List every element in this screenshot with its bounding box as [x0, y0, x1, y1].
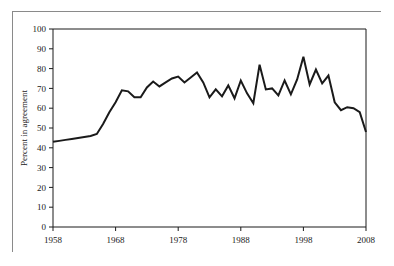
- x-tick-label: 1988: [232, 235, 251, 245]
- line-chart: 0102030405060708090100 19581968197819881…: [13, 12, 382, 253]
- y-tick-label: 60: [37, 103, 47, 113]
- y-tick-label: 20: [37, 183, 47, 193]
- x-tick-label: 1958: [44, 235, 63, 245]
- figure-outer-frame: 0102030405060708090100 19581968197819881…: [12, 11, 381, 252]
- y-tick-label: 0: [42, 222, 47, 232]
- y-axis-title: Percent in agreement: [19, 90, 29, 166]
- figure-container: 0102030405060708090100 19581968197819881…: [0, 0, 394, 266]
- y-tick-label: 80: [37, 64, 47, 74]
- plot-background: [13, 12, 382, 253]
- y-tick-label: 70: [37, 84, 47, 94]
- y-tick-label: 30: [37, 163, 47, 173]
- y-tick-label: 50: [37, 123, 47, 133]
- y-tick-label: 10: [37, 202, 47, 212]
- y-tick-label: 40: [37, 143, 47, 153]
- x-tick-label: 1998: [294, 235, 313, 245]
- x-tick-label: 2008: [357, 235, 376, 245]
- x-tick-label: 1968: [107, 235, 126, 245]
- x-tick-label: 1978: [169, 235, 188, 245]
- y-tick-label: 100: [33, 24, 47, 34]
- y-tick-label: 90: [37, 44, 47, 54]
